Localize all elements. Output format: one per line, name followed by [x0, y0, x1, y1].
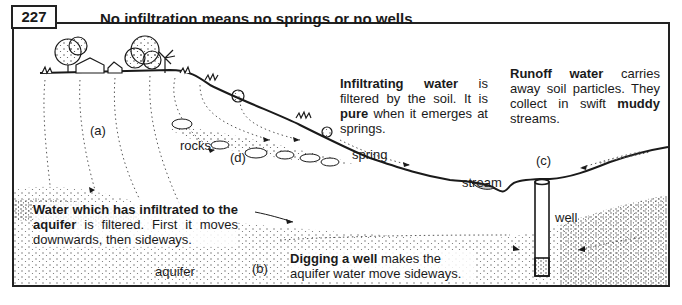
label-c: (c)	[536, 153, 551, 168]
caption-digging-well: Digging a well makes the aquifer water m…	[290, 251, 475, 281]
label-d: (d)	[230, 150, 246, 165]
label-aquifer: aquifer	[155, 264, 195, 279]
well	[535, 180, 549, 277]
label-a: (a)	[90, 123, 106, 138]
label-well: well	[555, 210, 577, 225]
figure-number: 227	[11, 5, 57, 29]
label-b: (b)	[252, 261, 268, 276]
label-stream: stream	[462, 175, 502, 190]
label-rocks: rocks	[180, 138, 211, 153]
caption-aquifer-water: Water which has infiltrated to the aquif…	[33, 202, 238, 247]
caption-runoff-water: Runoff water carries away soil particles…	[510, 66, 660, 126]
caption-infiltrating-water: Infiltrating water is filtered by the so…	[340, 76, 488, 136]
label-spring: spring	[352, 147, 387, 162]
